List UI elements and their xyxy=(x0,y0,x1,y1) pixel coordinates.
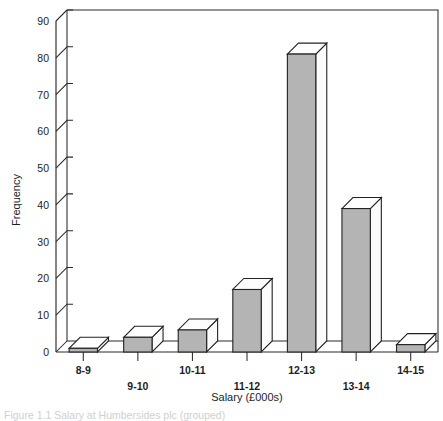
y-tick-label: 20 xyxy=(37,272,49,284)
y-axis-tick-labels: 0102030405060708090 xyxy=(37,15,49,358)
y-tick-mark xyxy=(56,47,73,58)
figure-caption: Figure 1.1 Salary at Humbersides plc (gr… xyxy=(4,409,225,421)
y-tick-mark xyxy=(56,267,73,278)
bar-front-face xyxy=(287,54,315,352)
y-tick-mark xyxy=(56,231,73,242)
bar-front-face xyxy=(69,348,97,352)
y-tick-mark xyxy=(56,10,73,21)
y-tick-mark xyxy=(56,120,73,131)
y-tick-label: 40 xyxy=(37,199,49,211)
y-axis-ticks xyxy=(56,10,73,315)
bar-14-15 xyxy=(397,334,436,352)
bar-front-face xyxy=(233,289,261,352)
y-tick-label: 50 xyxy=(37,162,49,174)
x-axis-ticks xyxy=(83,352,410,361)
y-tick-mark xyxy=(56,157,73,168)
y-tick-label: 30 xyxy=(37,236,49,248)
x-axis-tick-labels: 8-99-1010-1111-1212-1313-1414-15 xyxy=(76,364,425,392)
bar-side-face xyxy=(261,278,272,352)
bar-side-face xyxy=(370,198,381,352)
bar-8-9 xyxy=(69,337,108,352)
y-tick-mark xyxy=(56,304,73,315)
y-tick-label: 60 xyxy=(37,125,49,137)
y-tick-label: 10 xyxy=(37,309,49,321)
bar-11-12 xyxy=(233,278,272,352)
x-tick-label: 10-11 xyxy=(179,364,205,376)
x-tick-label: 9-10 xyxy=(127,380,148,392)
bar-front-face xyxy=(178,330,206,352)
x-tick-label: 13-14 xyxy=(343,380,370,392)
bar-front-face xyxy=(124,337,152,352)
y-tick-label: 90 xyxy=(37,15,49,27)
bar-side-face xyxy=(316,43,327,352)
bar-9-10 xyxy=(124,326,163,352)
x-axis-title: Salary (£000s) xyxy=(211,391,283,403)
bar-13-14 xyxy=(342,198,381,352)
y-tick-label: 80 xyxy=(37,52,49,64)
bar-12-13 xyxy=(287,43,326,352)
y-tick-label: 70 xyxy=(37,89,49,101)
y-axis-title: Frequency xyxy=(10,174,22,226)
bar-10-11 xyxy=(178,319,217,352)
x-tick-label: 14-15 xyxy=(397,364,424,376)
bar-front-face xyxy=(397,345,425,352)
y-tick-mark xyxy=(56,84,73,95)
bar-series xyxy=(69,43,436,352)
bar-front-face xyxy=(342,209,370,352)
x-tick-label: 12-13 xyxy=(288,364,315,376)
y-tick-label: 0 xyxy=(43,346,49,358)
x-tick-label: 8-9 xyxy=(76,364,91,376)
y-tick-mark xyxy=(56,194,73,205)
